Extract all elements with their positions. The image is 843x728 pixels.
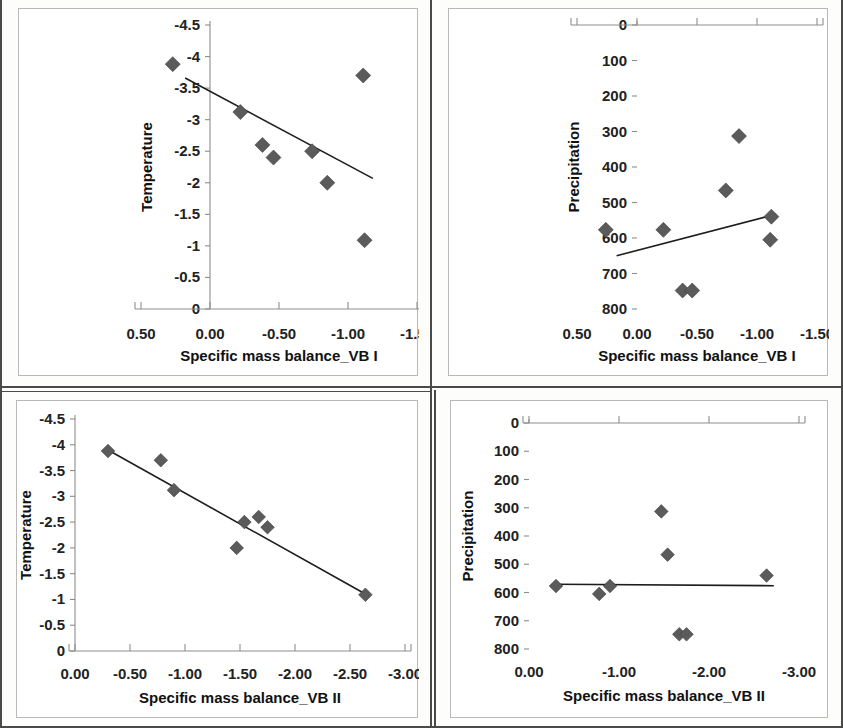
y-tick-label: -1 — [52, 590, 65, 607]
x-tick-label: 0.50 — [562, 325, 591, 342]
column-divider — [430, 0, 432, 728]
y-axis-title: Precipitation — [459, 491, 476, 582]
y-tick-label: 400 — [602, 158, 627, 175]
x-tick-label: -1.00 — [331, 325, 365, 342]
data-point-marker — [661, 548, 675, 562]
data-point-marker — [656, 222, 671, 237]
data-point-marker — [356, 68, 371, 83]
y-tick-label: 100 — [602, 52, 627, 69]
y-tick-label: -2.5 — [174, 142, 200, 159]
x-tick-label: -2.00 — [278, 665, 312, 682]
y-tick-label: -2.5 — [39, 513, 65, 530]
y-tick-label: 200 — [494, 471, 519, 488]
x-tick-label: 0.00 — [514, 663, 543, 680]
x-tick-label: -1.00 — [602, 663, 636, 680]
scatter-plot-tl: -4.5-4-3.5-3-2.5-2-1.5-1-0.500.500.00-0.… — [19, 9, 419, 377]
y-tick-label: 0 — [511, 414, 519, 431]
data-point-marker — [255, 137, 270, 152]
chart-panel-precipitation-vb2: 80070060050040030020010000.00-1.00-2.00-… — [450, 400, 828, 718]
y-tick-label: 0 — [57, 642, 65, 659]
chart-panel-precipitation-vb1: 80070060050040030020010000.500.00-0.50-1… — [448, 8, 828, 376]
sheet-border-left — [0, 0, 2, 728]
y-tick-label: 700 — [602, 265, 627, 282]
data-point-marker — [261, 520, 275, 534]
column-divider-lower — [434, 390, 436, 728]
y-tick-label: 700 — [494, 612, 519, 629]
x-tick-label: 0.50 — [126, 325, 155, 342]
trend-line — [185, 78, 373, 178]
data-point-marker — [320, 175, 335, 190]
y-tick-label: -1 — [187, 237, 200, 254]
y-tick-label: 300 — [494, 499, 519, 516]
x-axis-title: Specific mass balance_VB II — [563, 687, 765, 704]
y-tick-label: -1.5 — [39, 565, 65, 582]
y-tick-label: 600 — [494, 584, 519, 601]
x-tick-label: 0.00 — [622, 325, 651, 342]
data-point-marker — [760, 569, 774, 583]
y-axis-title: Precipitation — [565, 122, 582, 213]
data-point-marker — [592, 587, 606, 601]
row-divider-inner — [0, 391, 430, 392]
trend-line — [617, 214, 777, 256]
x-tick-label: -1.00 — [740, 325, 774, 342]
x-tick-label: 0.00 — [195, 325, 224, 342]
y-tick-label: -4.5 — [174, 16, 200, 33]
y-tick-label: 200 — [602, 87, 627, 104]
x-tick-label: -1.50 — [800, 325, 829, 342]
x-tick-label: -2.00 — [692, 663, 726, 680]
data-point-marker — [655, 505, 669, 519]
data-point-marker — [167, 483, 181, 497]
y-tick-label: -3.5 — [39, 462, 65, 479]
x-tick-label: -0.50 — [262, 325, 296, 342]
data-point-marker — [359, 588, 373, 602]
y-tick-label: 300 — [602, 123, 627, 140]
x-tick-label: -1.00 — [168, 665, 202, 682]
scatter-plot-tr: 80070060050040030020010000.500.00-0.50-1… — [449, 9, 829, 377]
data-point-marker — [154, 453, 168, 467]
x-tick-label: 0.00 — [60, 665, 89, 682]
y-tick-label: 400 — [494, 527, 519, 544]
data-point-marker — [357, 233, 372, 248]
x-tick-label: -0.50 — [113, 665, 147, 682]
y-tick-label: -4 — [187, 48, 201, 65]
y-tick-label: -3.5 — [174, 79, 200, 96]
y-tick-label: -3 — [52, 487, 65, 504]
chart-panel-temperature-vb1: -4.5-4-3.5-3-2.5-2-1.5-1-0.500.500.00-0.… — [18, 8, 418, 376]
x-axis-title: Specific mass balance_VB I — [598, 347, 796, 364]
data-point-marker — [101, 444, 115, 458]
y-tick-label: -2 — [52, 539, 65, 556]
x-tick-label: -3.00 — [782, 663, 816, 680]
x-axis-title: Specific mass balance_VB I — [180, 347, 378, 364]
y-tick-label: -2 — [187, 174, 200, 191]
row-divider — [0, 386, 843, 388]
data-point-marker — [252, 510, 266, 524]
x-tick-label: -0.50 — [680, 325, 714, 342]
y-tick-label: -4 — [52, 436, 66, 453]
scatter-plot-br: 80070060050040030020010000.00-1.00-2.00-… — [451, 401, 829, 719]
data-point-marker — [603, 579, 617, 593]
figure-sheet: -4.5-4-3.5-3-2.5-2-1.5-1-0.500.500.00-0.… — [0, 0, 843, 728]
data-point-marker — [266, 150, 281, 165]
x-tick-label: -2.50 — [333, 665, 367, 682]
y-tick-label: -0.5 — [39, 616, 65, 633]
data-point-marker — [165, 57, 180, 72]
data-point-marker — [233, 105, 248, 120]
y-tick-label: 100 — [494, 442, 519, 459]
data-point-marker — [718, 183, 733, 198]
data-point-marker — [763, 232, 778, 247]
data-point-marker — [305, 144, 320, 159]
data-point-marker — [732, 129, 747, 144]
y-tick-label: 500 — [602, 194, 627, 211]
x-axis-title: Specific mass balance_VB II — [139, 689, 341, 706]
y-axis-title: Temperature — [138, 122, 155, 212]
data-point-marker — [685, 283, 700, 298]
y-tick-label: 800 — [494, 640, 519, 657]
trend-line — [556, 584, 774, 585]
y-tick-label: -1.5 — [174, 205, 200, 222]
data-point-marker — [230, 541, 244, 555]
y-tick-label: 500 — [494, 555, 519, 572]
x-tick-label: -1.50 — [223, 665, 257, 682]
x-tick-label: -1.50 — [400, 325, 419, 342]
scatter-plot-bl: -4.5-4-3.5-3-2.5-2-1.5-1-0.500.00-0.50-1… — [17, 401, 419, 719]
chart-panel-temperature-vb2: -4.5-4-3.5-3-2.5-2-1.5-1-0.500.00-0.50-1… — [16, 400, 418, 718]
